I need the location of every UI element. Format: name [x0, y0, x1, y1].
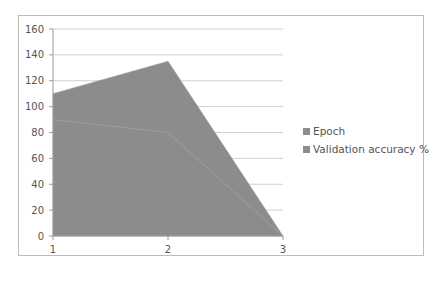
chart-legend: Epoch Validation accuracy %: [303, 122, 429, 158]
legend-swatch-icon: [303, 128, 310, 135]
legend-item-validation-accuracy: Validation accuracy %: [303, 140, 429, 158]
x-axis-ticks: 123: [50, 236, 286, 255]
area-series: [53, 61, 283, 236]
legend-item-epoch: Epoch: [303, 122, 429, 140]
y-tick-label: 20: [31, 205, 44, 216]
y-tick-label: 80: [31, 127, 44, 138]
y-tick-label: 0: [38, 231, 44, 242]
y-axis-ticks: 020406080100120140160: [25, 24, 53, 242]
y-tick-label: 160: [25, 24, 44, 35]
legend-label: Epoch: [313, 125, 345, 137]
x-tick-label: 1: [50, 244, 56, 255]
area-validation-accuracy-: [53, 120, 283, 236]
legend-swatch-icon: [303, 146, 310, 153]
x-tick-label: 3: [280, 244, 286, 255]
y-tick-label: 120: [25, 75, 44, 86]
y-tick-label: 40: [31, 179, 44, 190]
y-tick-label: 100: [25, 101, 44, 112]
legend-label: Validation accuracy %: [313, 143, 429, 155]
y-tick-label: 60: [31, 153, 44, 164]
x-tick-label: 2: [165, 244, 171, 255]
y-tick-label: 140: [25, 49, 44, 60]
